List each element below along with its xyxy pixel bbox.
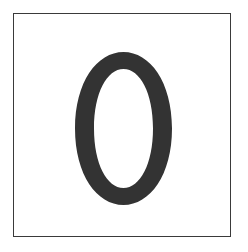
digit-zero-glyph: 0 xyxy=(75,52,172,205)
digit-zero-shape xyxy=(75,52,172,205)
